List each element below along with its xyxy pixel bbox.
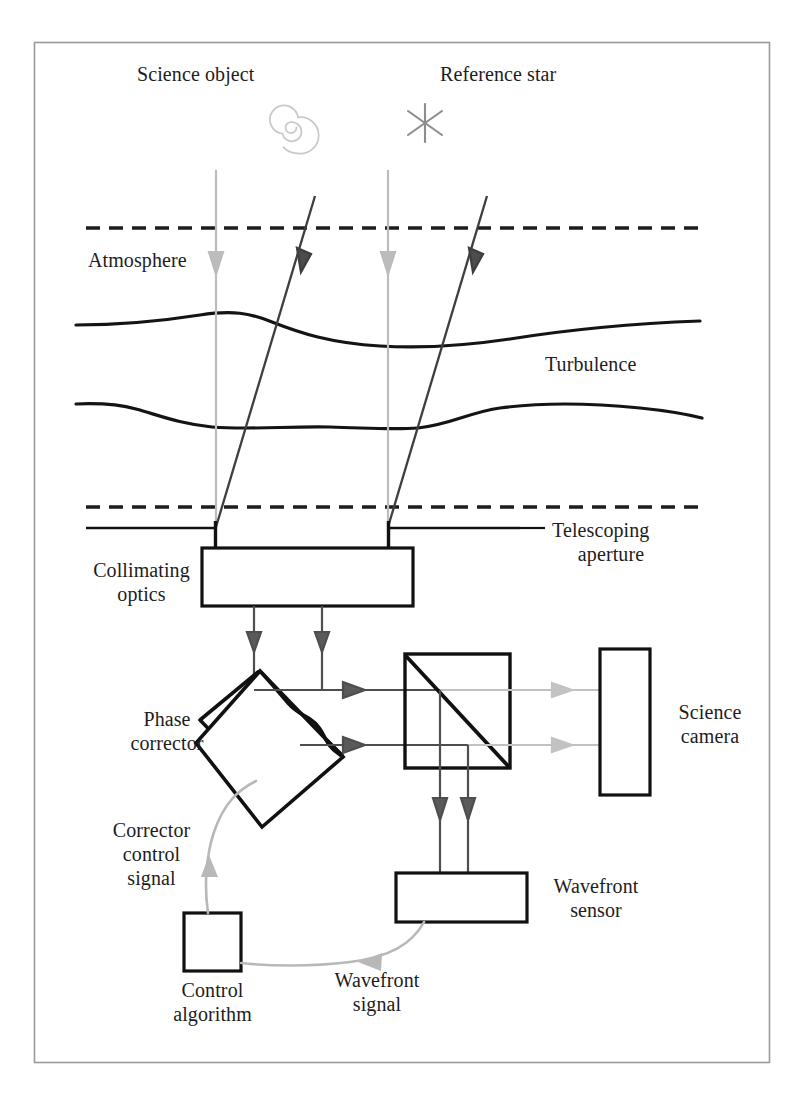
phase-corrector-label: Phase corrector [120, 707, 214, 755]
science-object-label: Science object [137, 62, 254, 86]
reference-star-label: Reference star [440, 62, 556, 86]
collimating-optics-label-line2: optics [84, 582, 199, 606]
phase-corrector-label-line1: Phase [120, 707, 214, 731]
collimating-optics-box [202, 548, 413, 606]
science-camera-label: Science camera [664, 700, 756, 748]
telescoping-aperture-label-line2: aperture [552, 542, 670, 566]
wavefront-sensor-box [396, 873, 527, 922]
corrector-control-signal-label-line1: Corrector [104, 818, 199, 842]
wavefront-sensor-label-line2: sensor [537, 898, 655, 922]
control-algorithm-label-line1: Control [160, 978, 265, 1002]
control-algorithm-box [184, 913, 241, 971]
turbulence-label: Turbulence [545, 352, 636, 376]
science-camera-label-line2: camera [664, 724, 756, 748]
collimating-optics-label: Collimating optics [84, 558, 199, 606]
corrector-control-signal-label-line2: control [104, 842, 199, 866]
control-algorithm-label: Control algorithm [160, 978, 265, 1026]
corrector-control-signal-label: Corrector control signal [104, 818, 199, 890]
science-camera-label-line1: Science [664, 700, 756, 724]
wavefront-signal-label-line1: Wavefront [322, 968, 432, 992]
telescoping-aperture-label: Telescoping aperture [552, 518, 702, 566]
wavefront-signal-label: Wavefront signal [322, 968, 432, 1016]
atmosphere-label: Atmosphere [88, 248, 187, 272]
phase-corrector-label-line2: corrector [120, 731, 214, 755]
wavefront-sensor-label-line1: Wavefront [537, 874, 655, 898]
corrector-control-signal-label-line3: signal [104, 866, 199, 890]
wavefront-sensor-label: Wavefront sensor [537, 874, 655, 922]
figure-root: Science object Reference star Atmosphere… [0, 0, 803, 1097]
telescoping-aperture-label-line1: Telescoping [552, 518, 702, 542]
control-algorithm-label-line2: algorithm [160, 1002, 265, 1026]
science-camera-box [600, 649, 650, 795]
collimating-optics-label-line1: Collimating [84, 558, 199, 582]
wavefront-signal-label-line2: signal [322, 992, 432, 1016]
